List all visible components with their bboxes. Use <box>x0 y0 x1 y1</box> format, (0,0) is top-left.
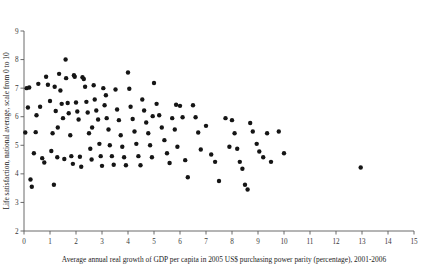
data-point <box>140 97 144 101</box>
y-tick-label: 4 <box>15 170 19 178</box>
data-point <box>32 151 36 155</box>
x-tick-label: 3 <box>100 238 104 246</box>
scatter-plot-figure: 012345678910111213141523456789 Average a… <box>0 0 425 270</box>
data-point <box>261 155 265 159</box>
data-point <box>209 152 213 156</box>
data-point <box>99 154 103 158</box>
data-point <box>89 157 93 161</box>
data-point <box>27 85 31 89</box>
data-point <box>128 105 132 109</box>
data-point <box>61 116 65 120</box>
y-tick-label: 7 <box>15 85 19 93</box>
data-point <box>151 114 155 118</box>
x-tick-label: 0 <box>22 238 26 246</box>
data-point <box>96 117 100 121</box>
data-point <box>130 117 134 121</box>
data-point <box>64 76 68 80</box>
data-point <box>78 155 82 159</box>
data-point <box>150 155 154 159</box>
data-point <box>52 183 56 187</box>
data-point <box>65 101 69 105</box>
data-point <box>52 85 56 89</box>
data-point <box>127 87 131 91</box>
x-tick-label: 10 <box>280 238 288 246</box>
data-point <box>94 108 98 112</box>
data-point <box>115 107 119 111</box>
data-point <box>255 142 259 146</box>
data-point <box>46 83 50 87</box>
data-point <box>36 82 40 86</box>
y-tick-label: 5 <box>15 142 19 150</box>
data-point <box>57 72 61 76</box>
data-point <box>54 109 58 113</box>
plot-canvas: 012345678910111213141523456789 Average a… <box>0 0 425 270</box>
x-tick-label: 11 <box>307 238 314 246</box>
data-point <box>87 131 91 135</box>
data-point <box>359 165 363 169</box>
data-point <box>248 121 252 125</box>
data-point <box>67 111 71 115</box>
data-point <box>232 131 236 135</box>
x-tick-label: 12 <box>332 238 340 246</box>
data-point <box>71 162 75 166</box>
data-point <box>84 100 88 104</box>
data-point <box>62 157 66 161</box>
data-point <box>136 154 140 158</box>
data-point <box>196 130 200 134</box>
x-tick-label: 14 <box>384 238 392 246</box>
data-point <box>28 177 32 181</box>
data-point <box>277 129 281 133</box>
y-axis-title: Life satisfaction, national average, sca… <box>2 52 11 210</box>
data-point <box>23 130 27 134</box>
data-point <box>282 151 286 155</box>
data-point <box>101 86 105 90</box>
data-point <box>55 155 59 159</box>
data-point <box>102 103 106 107</box>
data-point <box>93 97 97 101</box>
data-point <box>243 183 247 187</box>
data-point <box>91 83 95 87</box>
data-point <box>49 149 53 153</box>
data-point <box>73 75 77 79</box>
data-point <box>230 118 234 122</box>
x-tick-label: 13 <box>358 238 366 246</box>
data-point <box>44 75 48 79</box>
data-point <box>104 93 108 97</box>
x-tick-label: 5 <box>152 238 156 246</box>
data-point <box>144 120 148 124</box>
data-point <box>90 125 94 129</box>
data-point <box>69 154 73 158</box>
axes: 012345678910111213141523456789 <box>15 28 418 246</box>
data-point <box>110 154 114 158</box>
data-point <box>175 145 179 149</box>
data-point <box>217 179 221 183</box>
data-point <box>154 102 158 106</box>
data-point <box>108 143 112 147</box>
y-tick-label: 6 <box>15 113 19 121</box>
data-point <box>83 85 87 89</box>
data-point <box>117 118 121 122</box>
data-point <box>79 165 83 169</box>
data-point <box>178 104 182 108</box>
data-point <box>240 167 244 171</box>
data-point <box>26 105 30 109</box>
x-tick-label: 6 <box>178 238 182 246</box>
data-point <box>124 163 128 167</box>
data-point <box>119 133 123 137</box>
data-points <box>23 57 363 191</box>
data-point <box>38 105 42 109</box>
data-point <box>213 160 217 164</box>
data-point <box>106 127 110 131</box>
data-point <box>86 110 90 114</box>
data-point <box>42 160 46 164</box>
data-point <box>63 57 67 61</box>
y-tick-label: 3 <box>15 199 19 207</box>
data-point <box>265 131 269 135</box>
data-point <box>88 147 92 151</box>
data-point <box>165 151 169 155</box>
data-point <box>193 115 197 119</box>
data-point <box>170 116 174 120</box>
data-point <box>56 125 60 129</box>
data-point <box>146 131 150 135</box>
x-tick-label: 9 <box>256 238 260 246</box>
